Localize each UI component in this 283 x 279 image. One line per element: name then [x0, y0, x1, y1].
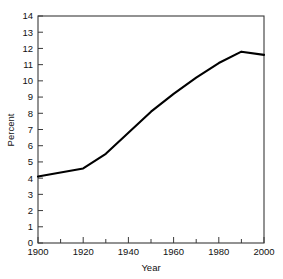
y-tick-label: 1	[28, 221, 33, 232]
y-tick-label: 8	[28, 108, 33, 119]
y-axis-title: Percent	[5, 113, 16, 146]
y-tick-label: 3	[28, 189, 33, 200]
x-tick-label: 1940	[118, 246, 139, 257]
y-tick-label: 7	[28, 124, 33, 135]
y-tick-label: 13	[22, 27, 33, 38]
y-tick-label: 11	[23, 59, 33, 70]
x-tick-label: 1960	[163, 246, 184, 257]
line-chart: 190019201940196019802000 012345678910111…	[0, 0, 283, 279]
y-tick-label: 14	[22, 10, 33, 21]
y-tick-label: 5	[28, 156, 33, 167]
y-tick-label: 4	[28, 173, 33, 184]
x-axis-title: Year	[141, 262, 160, 273]
plot-frame	[38, 16, 264, 243]
y-tick-label: 6	[28, 140, 33, 151]
y-axis-tick-labels: 01234567891011121314	[22, 10, 33, 248]
y-tick-label: 0	[28, 237, 33, 248]
x-tick-label: 1980	[208, 246, 229, 257]
x-tick-label: 1920	[73, 246, 94, 257]
y-tick-label: 10	[22, 75, 33, 86]
x-tick-label: 2000	[253, 246, 274, 257]
y-tick-label: 2	[28, 205, 33, 216]
x-axis-tick-labels: 190019201940196019802000	[27, 246, 274, 257]
y-tick-label: 12	[22, 43, 33, 54]
chart-container: 190019201940196019802000 012345678910111…	[0, 0, 283, 279]
y-tick-label: 9	[28, 91, 33, 102]
